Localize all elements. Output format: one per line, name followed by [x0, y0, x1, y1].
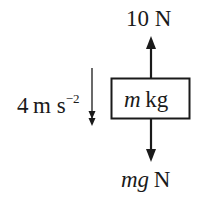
weight-label: mg N: [121, 168, 170, 191]
mass-variable: m: [124, 87, 141, 112]
weight-unit: N: [154, 167, 171, 192]
mass-unit: kg: [145, 87, 168, 112]
acceleration-exponent: −2: [66, 91, 80, 106]
acceleration-value: 4: [17, 93, 29, 118]
free-body-diagram: 10 N m kg mg N 4 m s−2: [0, 0, 213, 201]
upward-force-arrow-icon: [146, 36, 156, 78]
weight-variable: mg: [121, 167, 149, 192]
weight-arrow-icon: [146, 119, 156, 162]
acceleration-label: 4 m s−2: [17, 94, 80, 117]
upward-force-label: 10 N: [126, 7, 171, 30]
mass-label: m kg: [124, 88, 168, 111]
acceleration-unit: m s: [33, 93, 66, 118]
acceleration-arrow-icon: [89, 68, 96, 126]
